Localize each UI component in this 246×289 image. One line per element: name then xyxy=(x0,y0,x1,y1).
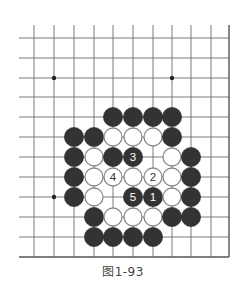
white-stone xyxy=(144,128,162,146)
white-stone xyxy=(85,168,103,186)
star-point xyxy=(52,195,56,199)
move-number-label: 1 xyxy=(150,191,156,203)
black-stone xyxy=(162,127,181,146)
black-stone xyxy=(64,127,83,146)
black-stone xyxy=(123,107,142,126)
black-stone xyxy=(162,207,181,226)
white-stone xyxy=(124,168,142,186)
black-stone: 1 xyxy=(143,187,162,206)
black-stone xyxy=(84,227,103,246)
move-number-label: 3 xyxy=(130,151,136,163)
white-stone xyxy=(85,188,103,206)
black-stone xyxy=(84,207,103,226)
black-stone xyxy=(162,107,181,126)
white-stone xyxy=(104,208,122,226)
black-stone xyxy=(181,147,200,166)
star-point xyxy=(52,76,56,80)
black-stone xyxy=(64,147,83,166)
white-stone xyxy=(144,208,162,226)
white-stone xyxy=(85,148,103,166)
black-stone xyxy=(103,107,122,126)
white-stone: 4 xyxy=(104,168,122,186)
black-stone xyxy=(181,167,200,186)
move-number-label: 5 xyxy=(130,191,136,203)
figure-caption: 图1-93 xyxy=(0,262,246,279)
move-number-label: 2 xyxy=(150,171,156,183)
white-stone xyxy=(124,128,142,146)
go-board-diagram: 34251 xyxy=(0,0,246,289)
black-stone xyxy=(143,227,162,246)
black-stone: 5 xyxy=(123,187,142,206)
black-stone xyxy=(64,167,83,186)
black-stone xyxy=(103,227,122,246)
black-stone xyxy=(181,187,200,206)
black-stone xyxy=(64,187,83,206)
white-stone xyxy=(124,208,142,226)
white-stone xyxy=(163,168,181,186)
white-stone xyxy=(163,188,181,206)
black-stone xyxy=(103,147,122,166)
move-number-label: 4 xyxy=(110,171,117,183)
white-stone: 2 xyxy=(144,168,162,186)
white-stone xyxy=(104,128,122,146)
white-stone xyxy=(163,148,181,166)
black-stone: 3 xyxy=(123,147,142,166)
black-stone xyxy=(84,127,103,146)
star-point xyxy=(170,76,174,80)
black-stone xyxy=(181,207,200,226)
black-stone xyxy=(123,227,142,246)
stones: 34251 xyxy=(64,107,200,246)
black-stone xyxy=(143,107,162,126)
